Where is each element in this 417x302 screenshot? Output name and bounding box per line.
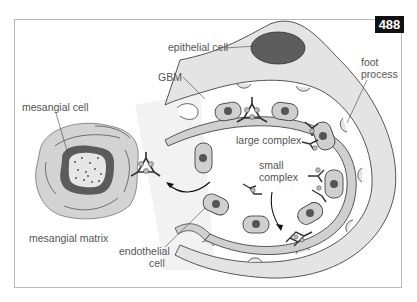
label-foot-process-line2: process xyxy=(361,69,398,80)
label-mesangial-cell: mesangial cell xyxy=(22,102,89,113)
glomerulus-diagram: 488 epithelial cell GBM foot process mes… xyxy=(0,0,417,302)
epithelial-nucleus xyxy=(251,32,305,64)
label-gbm: GBM xyxy=(158,72,182,83)
label-epithelial-cell: epithelial cell xyxy=(168,42,228,53)
figure-number-badge: 488 xyxy=(375,16,404,33)
label-small-complex-line2: complex xyxy=(259,172,298,183)
label-small-complex-line1: small xyxy=(259,160,284,171)
label-large-complex: large complex xyxy=(236,135,301,146)
label-endothelial-cell-line2: cell xyxy=(149,258,165,269)
label-foot-process-line1: foot xyxy=(361,57,379,68)
label-mesangial-matrix: mesangial matrix xyxy=(29,233,108,244)
label-endothelial-cell-line1: endothelial xyxy=(119,246,170,257)
arrow-small-complex xyxy=(271,192,280,228)
